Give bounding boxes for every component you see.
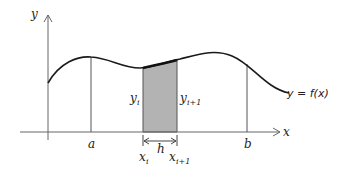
yi1-label: y [179, 91, 187, 105]
yi-label: y [129, 91, 137, 105]
xi1-label: x [169, 150, 176, 164]
xi-subscript: i [146, 157, 149, 166]
a-label: a [88, 137, 95, 151]
xi1-subscript: i+1 [176, 157, 190, 166]
yi1-subscript: i+1 [187, 98, 201, 107]
xi-label: x [139, 150, 146, 164]
x-axis-label: x [283, 125, 290, 139]
yi-subscript: i [137, 98, 140, 107]
h-label: h [157, 142, 165, 156]
b-label: b [244, 137, 252, 151]
curve-label: y = f(x) [286, 87, 329, 100]
trapezoid-diagram: y x a b y i y i+1 h x i x i+1 y = f(x) [0, 0, 343, 169]
shaded-strip [143, 60, 177, 132]
y-axis-label: y [30, 7, 38, 21]
